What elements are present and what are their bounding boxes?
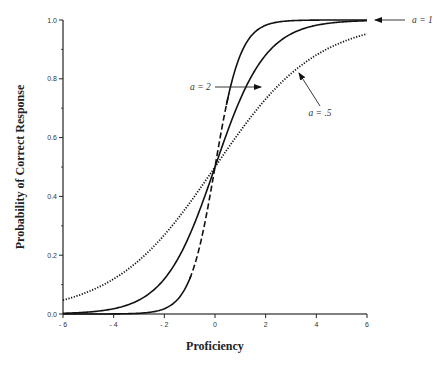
y-tick-label: 0.2 (47, 252, 57, 259)
annotation-a-2: a = 2 (190, 82, 211, 92)
x-axis: - 6- 4- 20246 (59, 314, 369, 328)
annotation-a-1: a = 1 (412, 15, 433, 25)
x-tick-label: - 6 (59, 321, 67, 328)
y-tick-label: 0.6 (47, 134, 57, 141)
x-axis-title: Proficiency (186, 339, 244, 353)
curve-a-0-5 (63, 34, 367, 300)
x-tick-label: 2 (264, 321, 268, 328)
x-tick-label: 0 (213, 321, 217, 328)
x-tick-label: - 4 (110, 321, 118, 328)
y-tick-label: 0.4 (47, 193, 57, 200)
y-axis-title: Probability of Correct Response (13, 84, 27, 249)
series-layer (63, 20, 367, 314)
y-tick-label: 0.8 (47, 75, 57, 82)
annotation-a-0-5: a = .5 (308, 108, 331, 118)
curve-a-2-dashed (190, 93, 229, 279)
y-tick-label: 1.0 (47, 17, 57, 24)
curve-a-2-solid (226, 20, 367, 105)
y-axis: 0.00.20.40.60.81.0 (47, 17, 63, 318)
x-tick-label: 6 (365, 321, 369, 328)
x-tick-label: 4 (314, 321, 318, 328)
irt-chart: 0.00.20.40.60.81.0 - 6- 4- 20246 a = 1a … (0, 0, 447, 365)
x-tick-label: - 2 (160, 321, 168, 328)
y-tick-label: 0.0 (47, 311, 57, 318)
annotation-arrow-icon (299, 73, 320, 106)
